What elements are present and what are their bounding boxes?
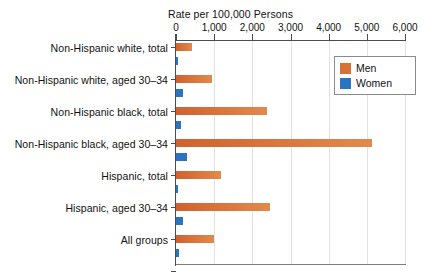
legend-label-women: Women bbox=[356, 78, 392, 89]
x-tick-label: 5,000 bbox=[354, 22, 379, 33]
bar-men bbox=[176, 139, 372, 147]
bar-women bbox=[176, 121, 181, 129]
category-label: Non-Hispanic white, aged 30–34 bbox=[15, 74, 168, 86]
category-label: Hispanic, total bbox=[101, 170, 168, 182]
category-label: Non-Hispanic white, total bbox=[51, 42, 168, 54]
bar-women bbox=[176, 153, 187, 161]
gridline bbox=[214, 41, 215, 264]
category-label: Non-Hispanic black, total bbox=[51, 106, 168, 118]
category-label: Hispanic, aged 30–34 bbox=[65, 202, 168, 214]
x-tick-label: 1,000 bbox=[202, 22, 227, 33]
x-tick-label: 6,000 bbox=[392, 22, 417, 33]
x-tick-label: 2,000 bbox=[240, 22, 265, 33]
gridline bbox=[329, 41, 330, 264]
y-tick-mark bbox=[171, 271, 176, 272]
legend-item-women[interactable]: Women bbox=[340, 76, 410, 91]
women-color-swatch bbox=[340, 78, 351, 89]
x-tick-label: 0 bbox=[173, 22, 179, 33]
category-label: Non-Hispanic black, aged 30–34 bbox=[15, 138, 168, 150]
x-tick-mark bbox=[405, 34, 406, 41]
category-label: All groups bbox=[121, 234, 168, 246]
bar-women bbox=[176, 185, 178, 193]
x-tick-mark bbox=[176, 34, 177, 41]
x-axis-title: Rate per 100,000 Persons bbox=[168, 8, 293, 20]
chart-legend: Men Women bbox=[334, 56, 416, 95]
x-tick-mark bbox=[291, 34, 292, 41]
bar-men bbox=[176, 75, 212, 83]
x-tick-mark bbox=[214, 34, 215, 41]
bar-women bbox=[176, 57, 178, 65]
bar-women bbox=[176, 249, 179, 257]
gridline bbox=[291, 41, 292, 264]
bar-men bbox=[176, 235, 214, 243]
bar-women bbox=[176, 217, 183, 225]
x-tick-mark bbox=[367, 34, 368, 41]
bar-men bbox=[176, 43, 192, 51]
bar-men bbox=[176, 171, 221, 179]
x-tick-mark bbox=[329, 34, 330, 41]
y-axis-line bbox=[175, 34, 176, 266]
legend-label-men: Men bbox=[356, 63, 376, 74]
bar-women bbox=[176, 89, 183, 97]
gridline bbox=[252, 41, 253, 264]
x-tick-label: 4,000 bbox=[316, 22, 341, 33]
legend-item-men[interactable]: Men bbox=[340, 61, 410, 76]
x-axis-line-bottom bbox=[176, 264, 406, 265]
x-tick-mark bbox=[252, 34, 253, 41]
bar-men bbox=[176, 107, 267, 115]
bar-men bbox=[176, 203, 270, 211]
x-tick-label: 3,000 bbox=[278, 22, 303, 33]
horizontal-bar-chart: Rate per 100,000 Persons 01,0002,0003,00… bbox=[0, 0, 427, 275]
men-color-swatch bbox=[340, 63, 351, 74]
